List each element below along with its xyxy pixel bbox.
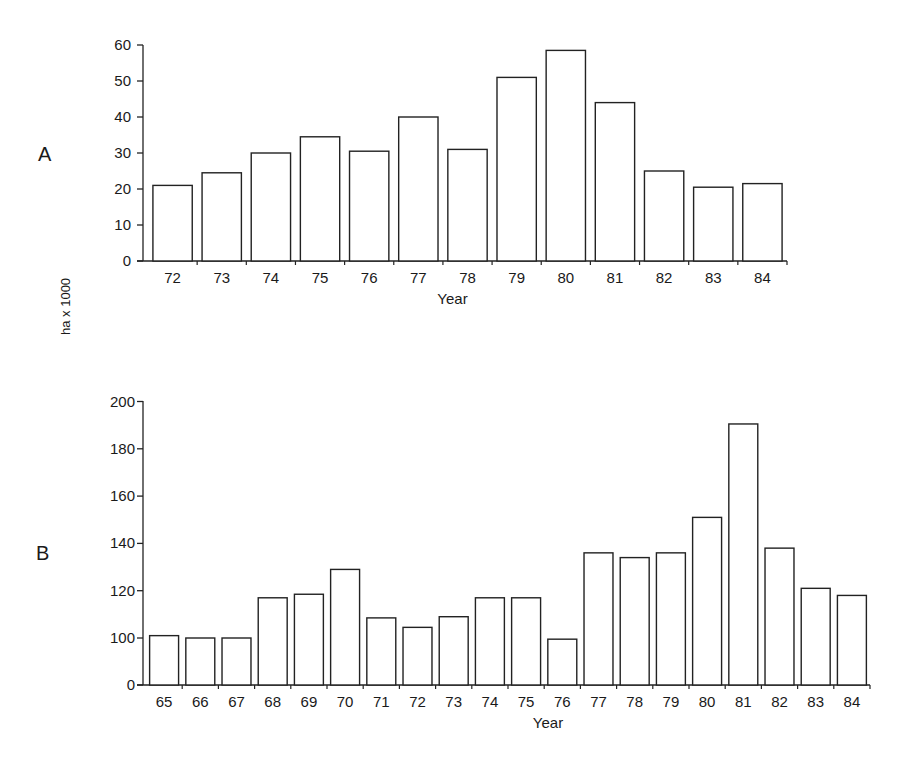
bar <box>595 103 634 261</box>
y-tick-label: 0 <box>123 252 131 269</box>
y-tick-label: 0 <box>127 676 135 693</box>
x-tick-label: 81 <box>607 269 624 286</box>
x-tick-label: 67 <box>228 693 245 710</box>
bar <box>512 598 541 685</box>
x-tick-label: 83 <box>705 269 722 286</box>
bar <box>439 617 468 685</box>
bar <box>743 184 782 261</box>
bar <box>620 558 649 685</box>
x-tick-label: 80 <box>699 693 716 710</box>
bar <box>475 598 504 685</box>
y-tick-label: 30 <box>114 144 131 161</box>
x-tick-label: 68 <box>264 693 281 710</box>
x-tick-label: 71 <box>373 693 390 710</box>
bar <box>403 627 432 685</box>
bar <box>644 171 683 261</box>
y-tick-label: 10 <box>114 216 131 233</box>
x-tick-label: 76 <box>361 269 378 286</box>
x-tick-label: 72 <box>409 693 426 710</box>
x-tick-label: 77 <box>410 269 427 286</box>
bar <box>693 517 722 685</box>
x-axis-label: Year <box>533 714 563 731</box>
bar <box>837 595 866 685</box>
x-tick-label: 70 <box>337 693 354 710</box>
x-tick-label: 82 <box>656 269 673 286</box>
y-tick-label: 200 <box>110 393 135 410</box>
bar <box>801 588 830 685</box>
bar <box>448 149 487 261</box>
x-tick-label: 73 <box>213 269 230 286</box>
x-tick-label: 82 <box>771 693 788 710</box>
bar <box>153 185 192 261</box>
x-tick-label: 78 <box>626 693 643 710</box>
chart-panel-a: 010203040506072737475767778798081828384Y… <box>114 36 787 307</box>
bar <box>497 77 536 261</box>
bar <box>202 173 241 261</box>
x-tick-label: 65 <box>156 693 173 710</box>
x-tick-label: 84 <box>844 693 861 710</box>
bar <box>694 187 733 261</box>
bar <box>258 598 287 685</box>
bar <box>251 153 290 261</box>
y-tick-label: 160 <box>110 487 135 504</box>
bar <box>294 594 323 685</box>
x-tick-label: 69 <box>301 693 318 710</box>
bar <box>186 638 215 685</box>
x-tick-label: 74 <box>263 269 280 286</box>
x-tick-label: 79 <box>663 693 680 710</box>
y-tick-label: 50 <box>114 72 131 89</box>
x-axis-label: Year <box>437 290 467 307</box>
bar <box>546 50 585 261</box>
x-tick-label: 81 <box>735 693 752 710</box>
bar <box>367 618 396 685</box>
x-tick-label: 72 <box>164 269 181 286</box>
x-tick-label: 83 <box>807 693 824 710</box>
bar <box>584 553 613 685</box>
y-tick-label: 140 <box>110 534 135 551</box>
chart-panel-b: 0100120140160180200656667686970717273747… <box>110 393 870 732</box>
x-tick-label: 73 <box>445 693 462 710</box>
bar <box>656 553 685 685</box>
x-tick-label: 74 <box>482 693 499 710</box>
bar <box>222 638 251 685</box>
bar <box>350 151 389 261</box>
x-tick-label: 75 <box>312 269 329 286</box>
y-tick-label: 20 <box>114 180 131 197</box>
bar <box>765 548 794 685</box>
x-tick-label: 80 <box>557 269 574 286</box>
bar <box>150 636 179 685</box>
x-tick-label: 78 <box>459 269 476 286</box>
bar <box>548 639 577 685</box>
bar <box>399 117 438 261</box>
bar-charts: 010203040506072737475767778798081828384Y… <box>0 0 907 761</box>
y-tick-label: 120 <box>110 582 135 599</box>
x-tick-label: 79 <box>508 269 525 286</box>
y-tick-label: 60 <box>114 36 131 53</box>
x-tick-label: 76 <box>554 693 571 710</box>
y-tick-label: 100 <box>110 629 135 646</box>
bar <box>300 137 339 261</box>
x-tick-label: 75 <box>518 693 535 710</box>
bar <box>331 569 360 685</box>
x-tick-label: 66 <box>192 693 209 710</box>
x-tick-label: 84 <box>754 269 771 286</box>
x-tick-label: 77 <box>590 693 607 710</box>
y-tick-label: 180 <box>110 440 135 457</box>
bar <box>729 424 758 685</box>
y-tick-label: 40 <box>114 108 131 125</box>
